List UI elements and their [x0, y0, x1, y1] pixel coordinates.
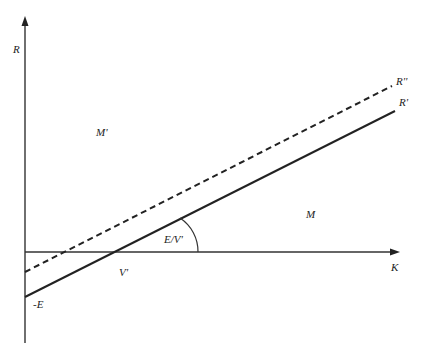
- region-label-m-prime: M': [96, 127, 108, 138]
- region-label-m: M: [306, 209, 315, 220]
- x-axis-label: K: [391, 262, 398, 273]
- line-label-r-double-prime: R'': [396, 76, 407, 87]
- x-intercept-label: V': [119, 267, 128, 278]
- line-r-prime: [25, 111, 395, 297]
- line-label-r-prime: R': [399, 97, 408, 108]
- y-axis-label: R: [13, 44, 20, 55]
- y-intercept-label: -E: [33, 299, 43, 310]
- line-r-double-prime: [25, 86, 392, 272]
- diagram-canvas: [0, 0, 424, 357]
- angle-label: E/V': [164, 234, 183, 245]
- y-axis-arrow-icon: [22, 16, 29, 26]
- x-axis-arrow-icon: [390, 249, 400, 256]
